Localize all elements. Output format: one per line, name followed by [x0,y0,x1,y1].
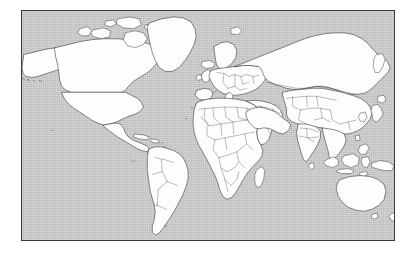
land-united-states [62,92,144,125]
islet-ellesmere [116,17,141,29]
islet-galapagos [131,160,136,162]
region-oceania [336,176,394,223]
islet-iceland [201,61,215,69]
region-indonesia [323,154,394,177]
islet-sulawesi [361,157,370,168]
islet-tasmania [371,213,378,219]
map-frame [21,10,395,241]
land-scandinavia [214,42,237,70]
islet-svalbard [231,27,242,35]
islet-madagascar [255,167,265,188]
islet-taiwan [355,135,360,141]
land-iberia [195,88,213,100]
islet-new-guinea [371,161,394,171]
islet-hawaii [52,130,54,131]
islet-cape-verde [185,118,187,119]
land-india [297,124,321,162]
islet-borneo [341,154,359,168]
region-south-america [147,147,188,235]
locator-map-figure [0,0,414,255]
islet-new-zealand-south [389,212,394,222]
islet-victoria [91,28,111,39]
land-canada [55,39,159,93]
islet-ireland [196,74,202,80]
islet-japan [371,104,383,122]
islet-aleutians [22,78,42,81]
land-south-america [147,147,188,235]
land-central-asia-china [283,88,373,134]
region-europe [195,42,267,105]
islet-java [336,169,354,174]
islet-sri-lanka [308,163,314,170]
region-north-america [22,17,166,152]
islet-sumatra [323,157,338,168]
islet-japan-hokkaido [377,95,386,103]
islet-hispaniola [150,139,159,143]
islet-cuba [133,134,149,140]
land-australia [336,176,386,212]
islet-canaries [191,107,193,108]
world-map-svg [22,11,394,240]
islet-banks [78,27,92,36]
islet-arctic-small-1 [105,20,117,27]
land-continental-europe [209,66,267,96]
islet-philippines [358,144,369,155]
